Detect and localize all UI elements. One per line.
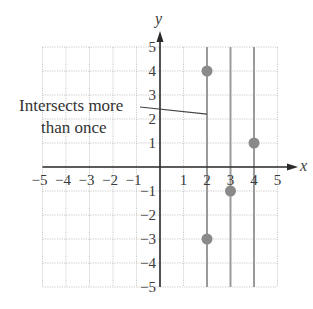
x-axis-label: x [299, 157, 307, 174]
y-tick-label: −3 [140, 231, 156, 247]
x-tick-label: −3 [79, 172, 95, 188]
x-tick-label: −5 [32, 172, 48, 188]
y-tick-label: −4 [140, 255, 156, 271]
data-point [202, 234, 213, 245]
y-tick-label: 2 [149, 111, 157, 127]
y-tick-label: 5 [149, 39, 157, 55]
y-tick-label: 1 [149, 135, 157, 151]
vertical-line-test-diagram: x y −5−4−3−2−112345 54321−1−2−3−4−5 Inte… [0, 0, 313, 309]
data-point [225, 186, 236, 197]
annotation-text-line-2: than once [41, 118, 107, 137]
y-tick-label: 3 [149, 87, 157, 103]
y-tick-label: 4 [149, 63, 157, 79]
x-tick-label: 1 [180, 172, 188, 188]
y-axis-label: y [153, 10, 163, 28]
y-axis-arrow-icon [157, 31, 164, 42]
x-axis-arrow-icon [287, 164, 298, 171]
y-tick-label: −2 [140, 207, 156, 223]
y-tick-label: −5 [140, 279, 156, 295]
x-tick-label: 2 [203, 172, 211, 188]
x-tick-labels: −5−4−3−2−112345 [32, 172, 282, 188]
data-point [202, 66, 213, 77]
x-tick-label: −4 [55, 172, 71, 188]
annotation-text-line-1: Intersects more [19, 96, 123, 115]
data-point [249, 138, 260, 149]
annotation: Intersects more than once [19, 96, 207, 137]
x-tick-label: 5 [274, 172, 282, 188]
y-tick-label: −1 [140, 183, 156, 199]
x-tick-label: 4 [250, 172, 258, 188]
axes: x y [43, 10, 308, 287]
x-tick-label: −2 [102, 172, 118, 188]
